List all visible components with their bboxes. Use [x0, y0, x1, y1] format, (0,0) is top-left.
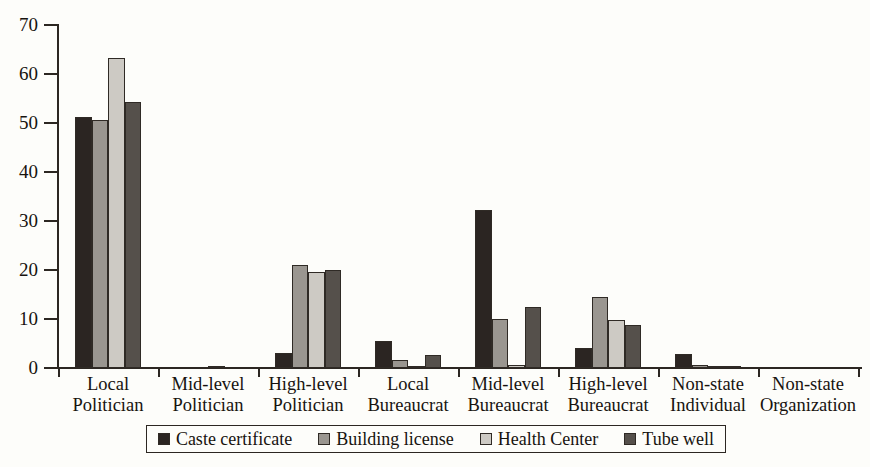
bar-chart: 706050403020100 LocalPoliticianMid-level… [0, 0, 870, 467]
bar [325, 270, 342, 368]
bar [308, 272, 325, 368]
y-axis-tick-label: 70 [0, 15, 38, 34]
bar [692, 365, 709, 368]
y-axis-tick-label: 0 [0, 358, 38, 377]
bar [608, 320, 625, 369]
y-axis-tick-label: 40 [0, 162, 38, 181]
bar-group [675, 25, 741, 368]
bar-group [75, 25, 141, 368]
legend-swatch-icon [158, 433, 170, 445]
y-axis-tick [44, 269, 57, 271]
x-axis-category-label-line: Non-state [746, 374, 870, 395]
plot-area [58, 25, 858, 368]
y-axis-tick-label: 20 [0, 260, 38, 279]
chart-legend: Caste certificateBuilding licenseHealth … [146, 425, 726, 453]
legend-swatch-icon [480, 433, 492, 445]
bar [108, 58, 125, 368]
y-axis-tick-label: 10 [0, 309, 38, 328]
y-axis-tick-label: 60 [0, 64, 38, 83]
bar [292, 265, 309, 368]
legend-item-label: Building license [336, 430, 453, 448]
bar [375, 341, 392, 368]
bar-group [775, 25, 841, 368]
bar [625, 325, 642, 368]
y-axis-tick [44, 220, 57, 222]
bar [508, 365, 525, 368]
y-axis-tick [44, 367, 57, 369]
bar [392, 360, 409, 368]
bar [408, 366, 425, 368]
y-axis-tick-label: 30 [0, 211, 38, 230]
legend-item[interactable]: Building license [318, 430, 453, 448]
legend-swatch-icon [624, 433, 636, 445]
x-axis-category-label: Non-stateOrganization [746, 374, 870, 416]
legend-item-label: Caste certificate [176, 430, 292, 448]
y-axis-tick [44, 318, 57, 320]
bar [475, 210, 492, 368]
y-axis-tick [44, 122, 57, 124]
y-axis-tick [44, 171, 57, 173]
y-axis-tick [44, 24, 57, 26]
legend-item[interactable]: Health Center [480, 430, 598, 448]
bar-group [575, 25, 641, 368]
y-axis-tick [44, 73, 57, 75]
legend-item[interactable]: Tube well [624, 430, 714, 448]
bar [525, 307, 542, 368]
bar-group [475, 25, 541, 368]
bar-group [175, 25, 241, 368]
legend-item-label: Health Center [498, 430, 598, 448]
bar-group [275, 25, 341, 368]
bar [425, 355, 442, 368]
bar [92, 120, 109, 368]
bar [208, 366, 225, 368]
y-axis-tick-label: 50 [0, 113, 38, 132]
bar [708, 366, 725, 368]
bar [592, 297, 609, 368]
bar [675, 354, 692, 368]
bar [275, 353, 292, 368]
legend-item[interactable]: Caste certificate [158, 430, 292, 448]
bar [575, 348, 592, 368]
bar-group [375, 25, 441, 368]
bar [492, 319, 509, 368]
x-axis-category-label-line: Organization [746, 395, 870, 416]
bar [725, 366, 742, 368]
bar [75, 117, 92, 368]
bar [125, 102, 142, 368]
legend-item-label: Tube well [642, 430, 714, 448]
legend-swatch-icon [318, 433, 330, 445]
